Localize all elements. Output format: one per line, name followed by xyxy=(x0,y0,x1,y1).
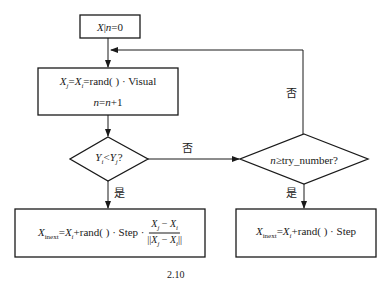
edge-label-cond1-no: 否 xyxy=(182,143,193,154)
random-step-label: Xinext=Xi+rand( ) · Step xyxy=(256,226,356,240)
edge-label-cond2-yes: 是 xyxy=(286,188,297,199)
condition-2-label: n≥try_number? xyxy=(270,155,338,166)
init-label: X|n=0 xyxy=(97,22,123,33)
condition-1-label: Yi<Yj? xyxy=(95,152,122,166)
figure-caption: 2.10 xyxy=(167,270,185,280)
edge-label-cond1-yes: 是 xyxy=(114,188,125,199)
edge-label-cond2-no: 否 xyxy=(286,88,297,99)
visual-label-line2: n=n+1 xyxy=(94,97,123,108)
step-towards-label: Xinext=Xi+rand( ) · Step · Xj − Xi ||Xj … xyxy=(38,219,182,248)
visual-label-line1: Xj=Xi=rand( ) · Visual xyxy=(60,76,156,90)
